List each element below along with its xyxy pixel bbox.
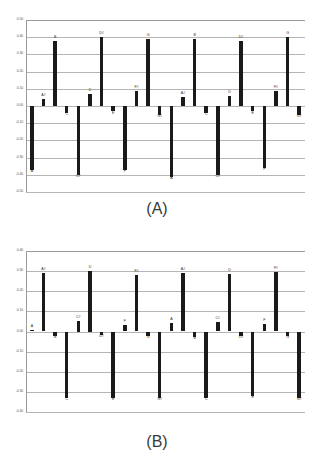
bar-label: E bbox=[252, 396, 254, 400]
bar-label: F bbox=[124, 170, 126, 174]
bar-label: E bbox=[112, 398, 114, 402]
bar bbox=[204, 332, 207, 398]
bar-label: B bbox=[54, 36, 56, 40]
y-tick-label: 0.00 bbox=[17, 104, 23, 107]
bar-label: D bbox=[228, 269, 231, 273]
bar-label: A# bbox=[181, 92, 185, 96]
bar bbox=[100, 37, 103, 106]
panel-b-caption: (B) bbox=[0, 433, 314, 451]
bar-label: F# bbox=[134, 86, 138, 90]
bar-label: C bbox=[205, 113, 208, 117]
panel-b-figure: 0.400.300.200.100.00-0.10-0.20-0.30-0.40… bbox=[0, 235, 314, 469]
bar-label: B bbox=[54, 336, 56, 340]
y-tick-label: -0.10 bbox=[16, 121, 23, 124]
bar-label: F bbox=[263, 319, 265, 323]
bar-label: A bbox=[170, 177, 172, 181]
bar bbox=[42, 99, 45, 106]
bar-label: C# bbox=[216, 317, 221, 321]
y-tick-label: -0.10 bbox=[16, 350, 23, 353]
y-tick-label: -0.20 bbox=[16, 139, 23, 142]
bar-label: C# bbox=[76, 316, 81, 320]
y-tick-label: 0.30 bbox=[17, 269, 23, 272]
y-tick-label: -0.40 bbox=[16, 410, 23, 413]
bar bbox=[30, 106, 33, 170]
bar-label: B bbox=[193, 337, 195, 341]
y-tick-label: 0.20 bbox=[17, 290, 23, 293]
bar bbox=[77, 321, 80, 331]
y-tick-label: 0.50 bbox=[17, 18, 23, 21]
bar-label: B bbox=[193, 34, 195, 38]
bar bbox=[297, 332, 300, 398]
bar-label: D# bbox=[239, 36, 244, 40]
bar bbox=[123, 325, 126, 331]
y-tick-label: -0.30 bbox=[16, 156, 23, 159]
bar bbox=[193, 39, 196, 106]
bar-label: A# bbox=[41, 268, 45, 272]
bar bbox=[216, 322, 219, 331]
panel-a-plot-area: 0.500.400.300.200.100.00-0.10-0.20-0.30-… bbox=[26, 20, 305, 192]
bar bbox=[135, 275, 138, 331]
bar bbox=[239, 41, 242, 106]
gridline bbox=[26, 412, 305, 413]
y-tick-label: -0.30 bbox=[16, 390, 23, 393]
bar bbox=[274, 272, 277, 331]
panel-a-caption: (A) bbox=[0, 200, 314, 218]
y-tick-label: -0.40 bbox=[16, 173, 23, 176]
bar bbox=[88, 271, 91, 331]
bar-label: F# bbox=[274, 267, 278, 271]
bar-label: G# bbox=[157, 398, 162, 402]
bar bbox=[123, 106, 126, 170]
bar bbox=[88, 94, 91, 106]
bar bbox=[146, 39, 149, 106]
y-tick-label: 0.40 bbox=[17, 249, 23, 252]
bar bbox=[216, 106, 219, 175]
y-tick-label: -0.20 bbox=[16, 370, 23, 373]
y-tick-label: 0.30 bbox=[17, 53, 23, 56]
bar bbox=[263, 324, 266, 331]
bar bbox=[228, 96, 231, 106]
bar-label: C bbox=[205, 398, 208, 402]
bar bbox=[286, 37, 289, 106]
bar bbox=[181, 97, 184, 106]
bar bbox=[53, 41, 56, 106]
bar bbox=[65, 332, 68, 398]
bar-label: A# bbox=[41, 94, 45, 98]
y-tick-label: 0.00 bbox=[17, 330, 23, 333]
bar-label: A# bbox=[181, 268, 185, 272]
bar-label: D# bbox=[99, 32, 104, 36]
bar bbox=[181, 273, 184, 331]
y-tick-label: 0.20 bbox=[17, 70, 23, 73]
bar-label: G bbox=[147, 34, 150, 38]
bar-label: D bbox=[89, 89, 92, 93]
bar-label: G bbox=[286, 32, 289, 36]
bar-label: E bbox=[112, 112, 114, 116]
bar-label: G# bbox=[297, 398, 302, 402]
bar-label: E bbox=[252, 112, 254, 116]
bar bbox=[228, 274, 231, 331]
bar-label: A bbox=[31, 170, 33, 174]
panel-a-bars: AA#BCC#DD#EFF#GG#AA#BCC#DD#EFF#GG# bbox=[26, 20, 305, 192]
bar-label: G bbox=[147, 336, 150, 340]
bar bbox=[274, 91, 277, 106]
bar-label: F bbox=[124, 320, 126, 324]
bar-label: A bbox=[170, 318, 172, 322]
panel-a-figure: 0.500.400.300.200.100.00-0.10-0.20-0.30-… bbox=[0, 0, 314, 235]
bar-label: C# bbox=[216, 175, 221, 179]
bar-label: C# bbox=[76, 175, 81, 179]
bar bbox=[30, 330, 33, 331]
bar bbox=[42, 273, 45, 331]
gridline bbox=[26, 192, 305, 193]
bar-label: D# bbox=[239, 336, 244, 340]
bar-label: C bbox=[65, 398, 68, 402]
bar-label: F bbox=[263, 168, 265, 172]
bar bbox=[170, 323, 173, 331]
bar bbox=[158, 332, 161, 398]
bar bbox=[170, 106, 173, 177]
bar-label: F# bbox=[274, 86, 278, 90]
panel-b-bars: AA#BCC#DD#EFF#GG#AA#BCC#DD#EFF#GG# bbox=[26, 251, 305, 412]
y-tick-label: -0.50 bbox=[16, 190, 23, 193]
bar-label: A bbox=[31, 325, 33, 329]
bar-label: G bbox=[286, 336, 289, 340]
panel-b-plot-area: 0.400.300.200.100.00-0.10-0.20-0.30-0.40… bbox=[26, 251, 305, 412]
bar-label: D bbox=[89, 266, 92, 270]
